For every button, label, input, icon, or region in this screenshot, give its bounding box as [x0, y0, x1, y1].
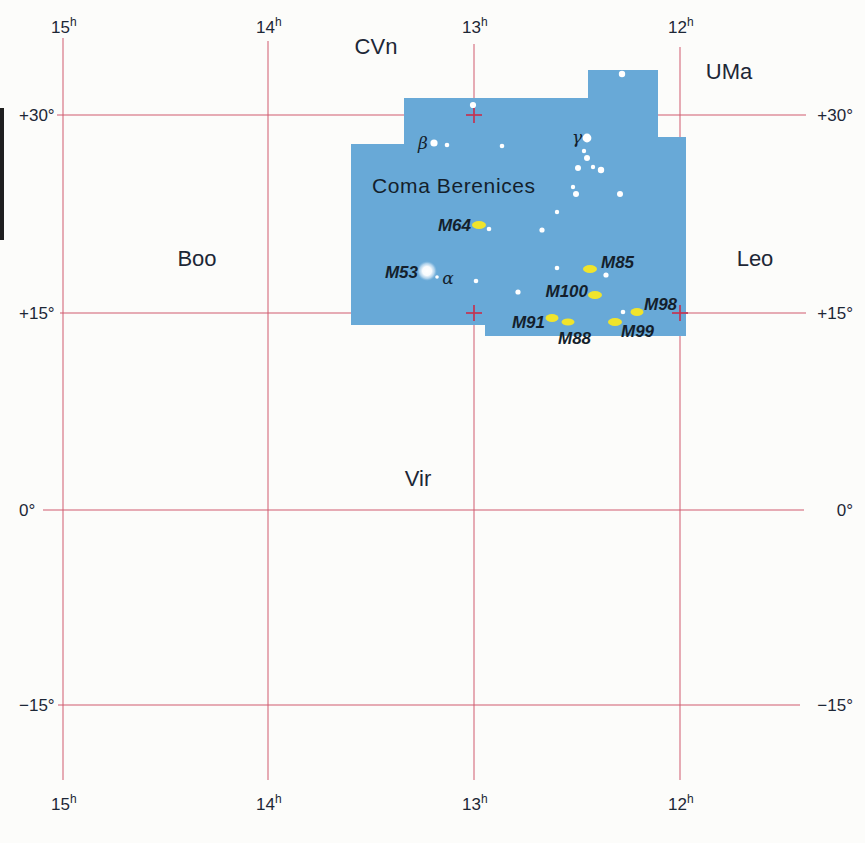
star [500, 144, 505, 149]
star [539, 227, 544, 232]
deep-sky-m53-glow [417, 261, 437, 281]
dec-label-right-15: −15° [817, 696, 853, 715]
star [617, 191, 623, 197]
dec-label-left-15: −15° [19, 696, 55, 715]
dec-label-right-0: 0° [837, 501, 853, 520]
deep-sky-label-m53: M53 [385, 263, 419, 282]
deep-sky-m85-ellipse [583, 265, 597, 273]
star [598, 167, 604, 173]
deep-sky-label-m85: M85 [601, 253, 635, 272]
star [474, 279, 479, 284]
star [591, 165, 595, 169]
star [621, 310, 626, 315]
constellation-name-label: Coma Berenices [372, 174, 536, 197]
star [487, 227, 492, 232]
deep-sky-label-m88: M88 [558, 329, 592, 348]
dec-label-right-30: +30° [817, 106, 853, 125]
coma-berenices-star-chart: 15h15h14h14h13h13h12h12h+30°+30°+15°+15°… [0, 0, 865, 843]
star [582, 149, 586, 153]
deep-sky-label-m64: M64 [438, 216, 472, 235]
star [573, 191, 579, 197]
deep-sky-m99-ellipse [608, 318, 622, 326]
deep-sky-m64-ellipse [472, 221, 486, 229]
star [584, 155, 590, 161]
star [555, 266, 560, 271]
star-greek-label-beta: β [417, 133, 428, 153]
deep-sky-m100-ellipse [588, 291, 602, 299]
star-greek-label-alpha: α [442, 268, 454, 288]
star [575, 165, 581, 171]
star [515, 289, 520, 294]
star [430, 139, 437, 146]
dec-label-right-15: +15° [817, 304, 853, 323]
neighbor-constellation-label-vir: Vir [405, 466, 432, 491]
neighbor-constellation-label-boo: Boo [177, 246, 216, 271]
star-chart-page: 15h15h14h14h13h13h12h12h+30°+30°+15°+15°… [0, 0, 865, 843]
star [583, 134, 592, 143]
neighbor-constellation-label-uma: UMa [706, 59, 753, 84]
dec-label-left-15: +15° [19, 304, 55, 323]
deep-sky-label-m99: M99 [621, 322, 655, 341]
star [470, 102, 476, 108]
neighbor-constellation-label-leo: Leo [737, 246, 774, 271]
dec-label-left-0: 0° [19, 501, 35, 520]
star [571, 185, 575, 189]
deep-sky-m91-ellipse [546, 314, 559, 322]
deep-sky-m88-ellipse [562, 319, 575, 326]
star [619, 71, 625, 77]
star-greek-label-gamma: γ [572, 127, 583, 147]
neighbor-constellation-label-cvn: CVn [355, 34, 398, 59]
deep-sky-label-m91: M91 [512, 313, 545, 332]
dec-label-left-30: +30° [19, 106, 55, 125]
deep-sky-label-m100: M100 [545, 282, 588, 301]
star [603, 272, 608, 277]
deep-sky-m98-ellipse [631, 308, 644, 316]
star [445, 143, 450, 148]
star [555, 210, 559, 214]
deep-sky-label-m98: M98 [644, 295, 678, 314]
page-edge-bar [0, 108, 4, 240]
